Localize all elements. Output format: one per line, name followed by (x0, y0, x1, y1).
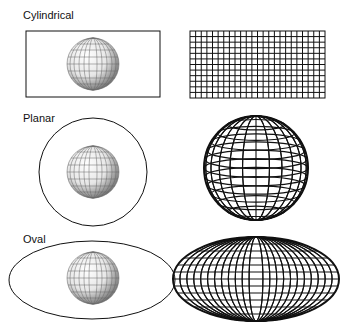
planar-globe (204, 116, 308, 220)
globe-icon (67, 38, 119, 90)
oval-graticule (173, 237, 339, 321)
projection-diagram (0, 0, 343, 328)
globe-icon (67, 146, 119, 198)
globe-icon (67, 252, 119, 304)
cylindrical-grid (190, 31, 325, 98)
